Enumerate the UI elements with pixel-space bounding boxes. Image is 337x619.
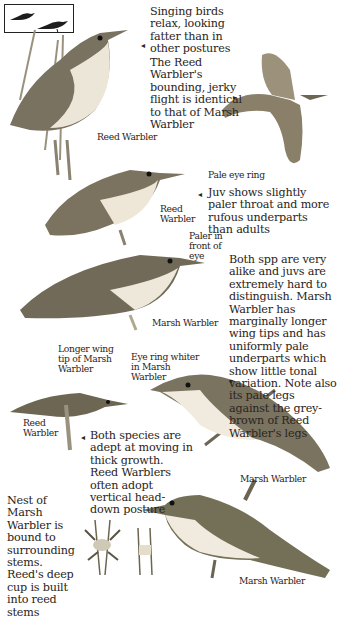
nest-illustrations bbox=[85, 520, 152, 575]
label-reed-warbler-2: Reed Warbler bbox=[160, 204, 194, 224]
label-eye-ring-whiter: Eye ring whiter in Marsh Warbler bbox=[131, 352, 203, 382]
label-reed-warbler-1: Reed Warbler bbox=[97, 132, 157, 142]
note-nest: Nest of Marsh Warbler is bound to surrou… bbox=[7, 495, 75, 619]
note-behaviour: Both species are adept at moving in thic… bbox=[90, 430, 194, 517]
label-marsh-warbler-1: Marsh Warbler bbox=[152, 318, 218, 328]
note-flight: The Reed Warbler's bounding, jerky fligh… bbox=[150, 57, 254, 131]
arrow-left-icon: ◂ bbox=[81, 433, 85, 442]
singing-reed-warbler bbox=[10, 30, 128, 180]
label-longer-wing-tip: Longer wing tip of Marsh Warbler bbox=[58, 344, 118, 374]
label-pale-eye-ring: Pale eye ring bbox=[208, 170, 265, 180]
note-singing: Singing birds relax, looking fatter than… bbox=[150, 6, 246, 56]
arrow-right-icon: ▸ bbox=[233, 93, 237, 102]
note-juvenile: Juv shows slightly paler throat and more… bbox=[208, 187, 332, 237]
label-paler-in-front: Paler in front of eye bbox=[189, 231, 225, 261]
note-comparison: Both spp are very alike and juvs are ext… bbox=[229, 254, 337, 440]
label-marsh-warbler-3: Marsh Warbler bbox=[239, 576, 305, 586]
arrow-left-icon: ◂ bbox=[141, 41, 145, 50]
arrow-down-icon: ▾ bbox=[229, 377, 233, 386]
label-marsh-warbler-2: Marsh Warbler bbox=[240, 474, 306, 484]
arrow-left-icon: ◂ bbox=[198, 190, 202, 199]
label-reed-warbler-3: Reed Warbler bbox=[23, 418, 57, 438]
